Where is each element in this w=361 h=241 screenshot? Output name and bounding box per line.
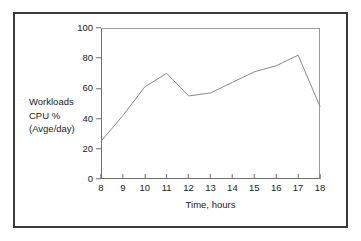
- x-axis-tick-label: 14: [227, 183, 238, 193]
- plot-area: 02040608010089101112131415161718: [101, 28, 320, 179]
- y-axis-tick-mark: [96, 148, 101, 149]
- x-axis-tick-mark: [100, 174, 101, 179]
- y-axis-label-line-3: (Avge/day): [29, 122, 97, 136]
- x-axis-label: Time, hours: [101, 200, 320, 210]
- x-axis-tick-mark: [166, 174, 167, 179]
- line-series: [101, 28, 320, 179]
- y-axis-tick-mark: [96, 88, 101, 89]
- x-axis-tick: 13: [205, 179, 216, 193]
- y-axis-tick-label: 20: [82, 144, 96, 154]
- x-axis-tick: 8: [98, 179, 103, 193]
- y-axis-tick: 40: [82, 114, 101, 124]
- y-axis-tick-label: 60: [82, 84, 96, 94]
- y-axis-tick-mark: [96, 58, 101, 59]
- x-axis-tick-mark: [276, 174, 277, 179]
- x-axis-tick-label: 18: [315, 183, 326, 193]
- y-axis-label-line-1: Workloads: [29, 95, 97, 109]
- x-axis-tick: 16: [271, 179, 282, 193]
- x-axis-tick-mark: [254, 174, 255, 179]
- x-axis-tick-mark: [298, 174, 299, 179]
- x-axis-tick-label: 13: [205, 183, 216, 193]
- x-axis-tick-mark: [122, 174, 123, 179]
- x-axis-tick-mark: [188, 174, 189, 179]
- y-axis-tick-label: 80: [82, 53, 96, 63]
- x-axis-tick-mark: [144, 174, 145, 179]
- x-axis-tick: 9: [120, 179, 125, 193]
- x-axis-tick-label: 8: [98, 183, 103, 193]
- y-axis-tick-mark: [96, 28, 101, 29]
- y-axis-tick-label: 100: [77, 23, 96, 33]
- y-axis-tick: 60: [82, 84, 101, 94]
- x-axis-tick-label: 17: [293, 183, 304, 193]
- x-axis-tick: 18: [315, 179, 326, 193]
- y-axis-tick: 20: [82, 144, 101, 154]
- x-axis-tick-mark: [319, 174, 320, 179]
- x-axis-tick: 14: [227, 179, 238, 193]
- x-axis-tick-mark: [210, 174, 211, 179]
- y-axis-tick: 80: [82, 53, 101, 63]
- x-axis-tick-label: 15: [249, 183, 260, 193]
- x-axis-tick-label: 11: [162, 183, 172, 193]
- x-axis-tick-label: 16: [271, 183, 282, 193]
- x-axis-tick: 10: [140, 179, 151, 193]
- chart-figure: Workloads CPU % (Avge/day) 0204060801008…: [0, 0, 361, 241]
- x-axis-tick-label: 12: [183, 183, 194, 193]
- y-axis-tick-label: 40: [82, 114, 96, 124]
- x-axis-tick-mark: [232, 174, 233, 179]
- x-axis-tick: 11: [162, 179, 172, 193]
- y-axis-tick-label: 0: [88, 174, 96, 184]
- y-axis-tick: 100: [77, 23, 101, 33]
- x-axis-tick: 12: [183, 179, 194, 193]
- y-axis-tick-mark: [96, 118, 101, 119]
- x-axis-tick: 17: [293, 179, 304, 193]
- x-axis-tick-label: 9: [120, 183, 125, 193]
- x-axis-tick: 15: [249, 179, 260, 193]
- x-axis-tick-label: 10: [140, 183, 151, 193]
